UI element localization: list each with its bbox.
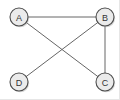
node-label-b: B: [102, 13, 108, 23]
node-label-c: C: [102, 78, 109, 88]
graph-diagram: ABCD: [0, 0, 120, 100]
node-label-d: D: [16, 78, 23, 88]
graph-node-c: C: [96, 73, 115, 92]
graph-canvas: ABCD: [0, 0, 120, 100]
graph-node-a: A: [10, 8, 29, 27]
graph-node-b: B: [96, 8, 115, 27]
edges-layer: [26, 17, 105, 77]
node-label-a: A: [16, 13, 22, 23]
graph-node-d: D: [10, 73, 29, 92]
